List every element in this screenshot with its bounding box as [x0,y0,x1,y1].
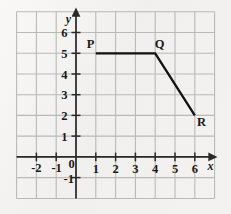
polyline-pqr [96,53,195,115]
point-label-p: P [87,37,95,51]
x-axis-label: x [207,159,214,173]
graph-figure: 6 5 4 3 2 1 -1 -2 -1 0 1 2 3 4 5 6 x y P… [0,0,231,214]
x-tick-label-6: 6 [192,162,198,176]
y-axis-label: y [64,12,72,26]
point-label-q: Q [155,37,165,51]
x-tick-label-minus-1: -1 [51,161,61,175]
x-tick-label-1: 1 [93,162,99,176]
x-tick-label-4: 4 [152,162,159,176]
y-tick-label-minus-1: -1 [64,172,74,186]
y-tick-label-3: 3 [61,88,67,102]
x-tick-label-3: 3 [132,162,138,176]
x-tick-label-0: 0 [68,157,74,171]
y-tick-label-4: 4 [61,68,68,82]
x-tick-label-5: 5 [172,162,178,176]
y-tick-label-6: 6 [61,26,67,40]
y-tick-label-1: 1 [61,130,67,144]
point-label-r: R [197,115,207,129]
x-tick-label-minus-2: -2 [31,161,41,175]
x-tick-label-2: 2 [112,162,118,176]
coordinate-plot: 6 5 4 3 2 1 -1 -2 -1 0 1 2 3 4 5 6 x y P… [0,0,231,214]
y-tick-label-5: 5 [61,47,67,61]
y-tick-label-2: 2 [61,109,67,123]
